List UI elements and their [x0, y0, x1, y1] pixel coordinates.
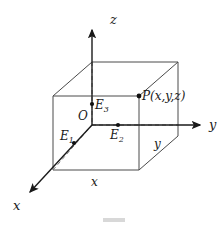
point-P-label: P(x,y,z) — [142, 90, 185, 102]
box-back-face-edges — [53, 62, 178, 170]
point-E3-label-subscript: 3 — [104, 105, 109, 114]
y-axis-label: y — [209, 118, 216, 131]
top-left-diagonal-edge — [53, 62, 92, 96]
point-E3-label-base: E — [95, 98, 104, 112]
point-E1-label: E1 — [60, 130, 74, 145]
point-E3-label: E3 — [95, 99, 109, 114]
right-edge-length-label-y: y — [154, 138, 161, 150]
bottom-edge-length-label-x: x — [91, 176, 98, 188]
x-axis-label: x — [13, 199, 20, 212]
figure-canvas: z y x x y O E3 E2 E1 P(x,y,z) — [0, 0, 224, 229]
point-E1-label-subscript: 1 — [69, 136, 74, 145]
z-axis-label: z — [110, 13, 117, 26]
point-E2-label-base: E — [110, 128, 119, 142]
point-E3-dot — [90, 102, 94, 106]
point-E2-label: E2 — [110, 129, 124, 144]
point-P-dot — [137, 94, 142, 99]
point-E1-label-base: E — [60, 129, 69, 143]
figure-geometry — [0, 0, 224, 229]
point-E2-dot — [116, 123, 120, 127]
point-E2-label-subscript: 2 — [119, 135, 124, 144]
caption-remnant — [103, 218, 125, 222]
origin-label: O — [78, 110, 88, 122]
